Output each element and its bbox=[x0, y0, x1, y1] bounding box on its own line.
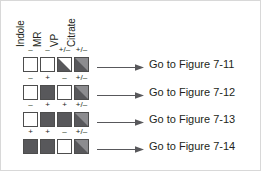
cell-sign: +/– bbox=[73, 100, 90, 110]
arrow-icon bbox=[97, 91, 145, 100]
result-box-fill bbox=[23, 112, 38, 127]
result-box-fill bbox=[40, 57, 55, 72]
column-header-mr: MR bbox=[30, 3, 46, 47]
result-box bbox=[23, 139, 38, 154]
arrow-icon bbox=[97, 145, 145, 154]
cell-sign: +/– bbox=[73, 73, 90, 83]
result-box bbox=[74, 139, 89, 154]
result-box bbox=[74, 57, 89, 72]
column-header-group: Indole MR VP Citrate bbox=[23, 3, 93, 47]
cell-sign: +/– bbox=[73, 45, 90, 55]
result-box bbox=[40, 85, 55, 100]
result-box-fill bbox=[74, 139, 89, 154]
result-box bbox=[40, 57, 55, 72]
cell-sign: +/– bbox=[73, 127, 90, 137]
cell-sign: + bbox=[39, 100, 56, 110]
result-box-fill bbox=[57, 112, 72, 127]
result-box bbox=[57, 57, 72, 72]
result-box-fill bbox=[57, 139, 72, 154]
imvic-decision-figure: Indole MR VP Citrate – – +/– +/– Go to F… bbox=[0, 0, 261, 171]
arrow-icon bbox=[97, 118, 145, 127]
cell-sign: + bbox=[22, 127, 39, 137]
result-cell-group: + + – +/– bbox=[23, 129, 93, 159]
arrow-label: Go to Figure 7-14 bbox=[149, 139, 235, 153]
result-box bbox=[40, 139, 55, 154]
cell-sign: – bbox=[39, 45, 56, 55]
result-box-fill bbox=[74, 112, 89, 127]
arrow-label: Go to Figure 7-13 bbox=[149, 112, 235, 126]
result-box-fill bbox=[57, 85, 72, 100]
result-box bbox=[57, 139, 72, 154]
result-box-fill bbox=[23, 139, 38, 154]
result-box bbox=[57, 112, 72, 127]
result-box-fill bbox=[23, 57, 38, 72]
result-box-fill bbox=[23, 85, 38, 100]
result-box bbox=[23, 85, 38, 100]
result-box bbox=[40, 112, 55, 127]
result-box-fill bbox=[74, 85, 89, 100]
cell-sign: – bbox=[22, 45, 39, 55]
cell-sign: + bbox=[39, 73, 56, 83]
result-row: + + – +/– Go to Figure 7-14 bbox=[1, 129, 261, 159]
arrow-label: Go to Figure 7-12 bbox=[149, 85, 235, 99]
result-box bbox=[23, 57, 38, 72]
arrow-icon bbox=[97, 63, 145, 72]
cell-sign: + bbox=[39, 127, 56, 137]
result-box-fill bbox=[57, 57, 72, 72]
result-box-fill bbox=[40, 112, 55, 127]
result-box-fill bbox=[40, 139, 55, 154]
result-box bbox=[74, 85, 89, 100]
result-box-fill bbox=[74, 57, 89, 72]
result-box bbox=[23, 112, 38, 127]
column-header-vp: VP bbox=[47, 3, 63, 47]
column-header-citrate: Citrate bbox=[64, 3, 80, 47]
cell-sign: – bbox=[22, 73, 39, 83]
result-box bbox=[57, 85, 72, 100]
cell-sign: – bbox=[56, 73, 73, 83]
arrow-label: Go to Figure 7-11 bbox=[149, 57, 234, 71]
result-box-fill bbox=[40, 85, 55, 100]
cell-sign: +/– bbox=[56, 45, 73, 55]
cell-sign: – bbox=[22, 100, 39, 110]
cell-sign: + bbox=[56, 100, 73, 110]
column-header-indole: Indole bbox=[13, 3, 29, 47]
result-box bbox=[74, 112, 89, 127]
cell-sign: – bbox=[56, 127, 73, 137]
